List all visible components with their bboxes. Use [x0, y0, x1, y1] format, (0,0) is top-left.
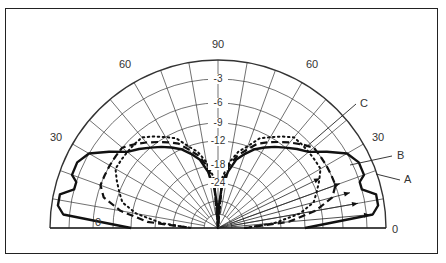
grid-spoke [89, 120, 207, 219]
db-label: -3 [214, 73, 223, 84]
db-label: -6 [214, 97, 223, 108]
angle-label: 0 [95, 216, 101, 228]
db-label: -12 [211, 135, 226, 146]
callout-label-A: A [404, 173, 412, 185]
callout-line [305, 104, 356, 148]
angle-label: 0 [392, 223, 398, 235]
callout-label-B: B [397, 149, 404, 161]
polar-plot: 030609060300-3-6-9-12-18-24 ABC [0, 0, 446, 263]
arrowhead-icon [352, 202, 358, 207]
grid-spoke [53, 199, 205, 226]
angle-label: 30 [50, 131, 62, 143]
angle-label: 30 [372, 131, 384, 143]
callout-line [376, 174, 400, 180]
callout-label-C: C [360, 97, 368, 109]
db-label: -18 [211, 159, 226, 170]
grid-spoke [110, 99, 209, 217]
angle-label: 60 [119, 58, 131, 70]
db-label: -9 [214, 117, 223, 128]
db-label: -24 [211, 177, 226, 188]
angle-label: 90 [212, 38, 224, 50]
angle-label: 60 [306, 58, 318, 70]
series-callouts: ABC [218, 97, 412, 228]
